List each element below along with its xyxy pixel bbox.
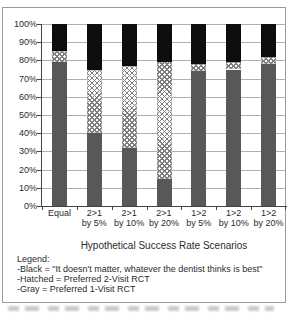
legend-heading: Legend: — [17, 254, 279, 264]
y-tick-mark-10% — [37, 188, 41, 189]
bar-segment-black-2>1-by-10- — [122, 24, 137, 66]
x-label-line-1: 2>1 — [147, 208, 182, 218]
x-label-line-2: by 10% — [112, 218, 147, 228]
x-label-2>1-by-10-: 2>1by 10% — [112, 208, 147, 228]
x-tick-mark-7 — [285, 206, 286, 210]
x-label-line-2: by 5% — [77, 218, 112, 228]
bar-segment-gray-2>1-by-10- — [122, 148, 137, 206]
y-tick-mark-70% — [37, 79, 41, 80]
y-tick-label-70%: 70% — [7, 74, 37, 84]
x-label-line-1: 1>2 — [216, 208, 251, 218]
legend-item-gray: -Gray = Preferred 1-Visit RCT — [17, 284, 279, 294]
bar-segment-gray-equal — [52, 62, 67, 206]
y-tick-mark-90% — [37, 42, 41, 43]
legend-item-hatched: -Hatched = Preferred 2-Visit RCT — [17, 274, 279, 284]
bar-segment-gray-1>2-by-20- — [261, 64, 276, 206]
bar-segment-black-2>1-by-20- — [157, 24, 172, 62]
y-axis-line — [41, 24, 42, 207]
y-tick-mark-60% — [37, 97, 41, 98]
y-tick-label-90%: 90% — [7, 37, 37, 47]
x-label-line-2: by 5% — [181, 218, 216, 228]
bar-segment-black-1>2-by-10- — [226, 24, 241, 62]
x-label-equal: Equal — [42, 208, 77, 218]
x-label-line-2: by 20% — [147, 218, 182, 228]
bar-segment-hatched-equal — [52, 51, 67, 62]
x-label-line-2: by 20% — [251, 218, 286, 228]
bar-segment-hatched-1>2-by-20- — [261, 57, 276, 64]
bar-segment-hatched-1>2-by-10- — [226, 62, 241, 69]
bar-segment-hatched-1>2-by-5- — [191, 64, 206, 71]
bar-segment-black-1>2-by-20- — [261, 24, 276, 57]
bar-segment-gray-1>2-by-5- — [191, 71, 206, 206]
scanned-figure-page: Equal2>1by 5%2>1by 10%2>1by 20%1>2by 5%1… — [0, 0, 292, 313]
y-tick-label-0%: 0% — [7, 201, 37, 211]
x-label-2>1-by-20-: 2>1by 20% — [147, 208, 182, 228]
bar-segment-black-2>1-by-5- — [87, 24, 102, 70]
x-tick-mark-1 — [77, 206, 78, 210]
y-tick-label-20%: 20% — [7, 165, 37, 175]
bar-segment-gray-2>1-by-20- — [157, 179, 172, 206]
y-tick-label-10%: 10% — [7, 183, 37, 193]
legend-item-black: -Black = "It doesn't matter, whatever th… — [17, 264, 279, 274]
y-tick-label-50%: 50% — [7, 110, 37, 120]
chart-legend: Legend: -Black = "It doesn't matter, wha… — [17, 254, 279, 294]
x-label-line-1: 2>1 — [112, 208, 147, 218]
x-tick-mark-5 — [216, 206, 217, 210]
bar-segment-gray-1>2-by-10- — [226, 70, 241, 207]
x-axis-title: Hypothetical Success Rate Scenarios — [42, 240, 286, 251]
y-tick-label-40%: 40% — [7, 128, 37, 138]
y-tick-label-80%: 80% — [7, 55, 37, 65]
y-tick-mark-40% — [37, 133, 41, 134]
bar-segment-black-1>2-by-5- — [191, 24, 206, 64]
y-tick-mark-100% — [37, 24, 41, 25]
bar-segment-gray-2>1-by-5- — [87, 133, 102, 206]
x-label-2>1-by-5-: 2>1by 5% — [77, 208, 112, 228]
x-label-line-1: Equal — [42, 208, 77, 218]
bar-segment-hatched-2>1-by-10- — [122, 66, 137, 148]
x-tick-mark-6 — [251, 206, 252, 210]
x-label-1>2-by-20-: 1>2by 20% — [251, 208, 286, 228]
y-tick-mark-80% — [37, 60, 41, 61]
x-label-1>2-by-10-: 1>2by 10% — [216, 208, 251, 228]
figure-frame: Equal2>1by 5%2>1by 10%2>1by 20%1>2by 5%1… — [2, 7, 286, 303]
x-tick-mark-4 — [181, 206, 182, 210]
bar-segment-black-equal — [52, 24, 67, 51]
x-tick-mark-0 — [42, 206, 43, 210]
y-tick-mark-30% — [37, 151, 41, 152]
x-axis-line — [41, 206, 287, 207]
y-tick-label-30%: 30% — [7, 146, 37, 156]
cropped-caption-scan-artifact — [8, 306, 274, 311]
x-label-line-2: by 10% — [216, 218, 251, 228]
y-tick-mark-0% — [37, 206, 41, 207]
bar-segment-hatched-2>1-by-5- — [87, 70, 102, 134]
x-label-1>2-by-5-: 1>2by 5% — [181, 208, 216, 228]
y-tick-mark-20% — [37, 170, 41, 171]
x-label-line-1: 2>1 — [77, 208, 112, 218]
x-label-line-1: 1>2 — [181, 208, 216, 218]
y-tick-mark-50% — [37, 115, 41, 116]
x-tick-mark-3 — [147, 206, 148, 210]
bar-segment-hatched-2>1-by-20- — [157, 62, 172, 178]
x-label-line-1: 1>2 — [251, 208, 286, 218]
y-tick-label-60%: 60% — [7, 92, 37, 102]
x-tick-mark-2 — [112, 206, 113, 210]
y-tick-label-100%: 100% — [7, 19, 37, 29]
plot-area — [42, 24, 286, 206]
